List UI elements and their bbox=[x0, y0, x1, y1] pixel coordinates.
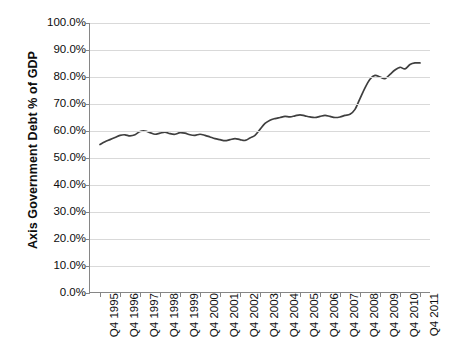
y-axis-tick-label: 70.0% bbox=[28, 98, 86, 109]
y-axis-tick-label: 10.0% bbox=[28, 260, 86, 271]
gridline bbox=[90, 104, 430, 105]
x-axis-tick-label: Q4 2002 bbox=[247, 293, 261, 359]
gridline bbox=[90, 212, 430, 213]
y-axis-tick-mark bbox=[86, 212, 90, 213]
plot-area bbox=[90, 23, 430, 293]
y-axis-tick-mark bbox=[86, 266, 90, 267]
y-axis-tick-label: 20.0% bbox=[28, 233, 86, 244]
y-axis-tick-label: 50.0% bbox=[28, 152, 86, 163]
x-axis-tick-label: Q4 2011 bbox=[427, 293, 441, 359]
gridline bbox=[90, 266, 430, 267]
y-axis-tick-mark bbox=[86, 104, 90, 105]
x-axis-tick-label: Q4 2009 bbox=[387, 293, 401, 359]
y-axis-tick-mark bbox=[86, 239, 90, 240]
y-axis-tick-label: 90.0% bbox=[28, 44, 86, 55]
x-axis-tick-label: Q4 1998 bbox=[167, 293, 181, 359]
gridline bbox=[90, 77, 430, 78]
gridline bbox=[90, 23, 430, 24]
x-axis-tick-label: Q4 2006 bbox=[327, 293, 341, 359]
x-axis-tick-label: Q4 1999 bbox=[187, 293, 201, 359]
gridline bbox=[90, 239, 430, 240]
y-axis-tick-label: 40.0% bbox=[28, 179, 86, 190]
x-axis-tick-label: Q4 2001 bbox=[227, 293, 241, 359]
x-axis-tick-label: Q4 2003 bbox=[267, 293, 281, 359]
y-axis-tick-label: 30.0% bbox=[28, 206, 86, 217]
gridline bbox=[90, 185, 430, 186]
gridline bbox=[90, 158, 430, 159]
y-axis-tick-mark bbox=[86, 23, 90, 24]
x-axis-tick-label: Q4 2005 bbox=[307, 293, 321, 359]
gridline bbox=[90, 131, 430, 132]
x-axis-tick-label: Q4 1996 bbox=[127, 293, 141, 359]
y-axis-tick-mark bbox=[86, 293, 90, 294]
gridline bbox=[90, 50, 430, 51]
y-axis-tick-labels: 100.0%90.0%80.0%70.0%60.0%50.0%40.0%30.0… bbox=[22, 0, 86, 363]
y-axis-tick-mark bbox=[86, 185, 90, 186]
y-axis-tick-label: 60.0% bbox=[28, 125, 86, 136]
x-axis-tick-label: Q4 2008 bbox=[367, 293, 381, 359]
y-axis-tick-mark bbox=[86, 77, 90, 78]
x-axis-tick-label: Q4 1997 bbox=[147, 293, 161, 359]
debt-to-gdp-line-chart: Axis Government Debt % of GDP 100.0%90.0… bbox=[0, 0, 450, 363]
y-axis-tick-label: 80.0% bbox=[28, 71, 86, 82]
y-axis-tick-label: 100.0% bbox=[28, 17, 86, 28]
x-axis-tick-label: Q4 2000 bbox=[207, 293, 221, 359]
y-axis-tick-mark bbox=[86, 131, 90, 132]
y-axis-tick-label: 0.0% bbox=[28, 287, 86, 298]
y-axis-tick-mark bbox=[86, 158, 90, 159]
x-axis-tick-label: Q4 1995 bbox=[107, 293, 121, 359]
x-axis-tick-label: Q4 2007 bbox=[347, 293, 361, 359]
x-axis-tick-label: Q4 2004 bbox=[287, 293, 301, 359]
x-axis-tick-labels: Q4 1995Q4 1996Q4 1997Q4 1998Q4 1999Q4 20… bbox=[90, 297, 450, 363]
y-axis-tick-mark bbox=[86, 50, 90, 51]
x-axis-tick-label: Q4 2010 bbox=[407, 293, 421, 359]
